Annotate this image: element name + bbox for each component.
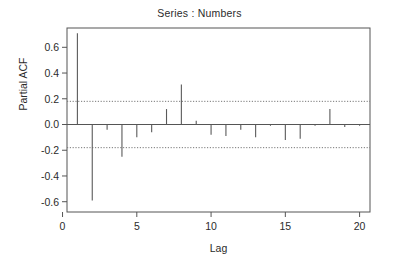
x-tick-label: 0	[60, 220, 66, 232]
x-axis-ticks: 05101520	[60, 212, 366, 232]
y-tick-label: 0.4	[44, 67, 59, 79]
y-tick-label: -0.4	[41, 170, 59, 182]
plot-area: -0.6-0.4-0.20.00.20.40.6 05101520	[0, 0, 399, 266]
y-axis-ticks: -0.6-0.4-0.20.00.20.40.6	[41, 41, 67, 207]
pacf-bars	[77, 33, 359, 200]
pacf-chart: Series : Numbers Partial ACF Lag -0.6-0.…	[0, 0, 399, 266]
x-tick-label: 15	[279, 220, 291, 232]
y-tick-label: 0.6	[44, 41, 59, 53]
y-tick-label: 0.2	[44, 93, 59, 105]
x-tick-label: 5	[134, 220, 140, 232]
plot-frame	[67, 28, 370, 212]
x-tick-label: 10	[205, 220, 217, 232]
y-tick-label: 0.0	[44, 118, 59, 130]
plot-border	[67, 28, 370, 212]
y-tick-label: -0.6	[41, 196, 59, 208]
x-tick-label: 20	[354, 220, 366, 232]
y-tick-label: -0.2	[41, 144, 59, 156]
